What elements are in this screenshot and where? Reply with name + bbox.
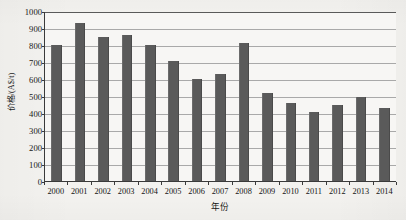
x-tick-mark	[138, 182, 139, 185]
bar-slot	[92, 12, 115, 181]
x-tick-label: 2010	[279, 186, 302, 199]
x-tick-label: 2007	[208, 186, 231, 199]
x-axis-title: 年份	[44, 200, 396, 212]
x-tick-label: 2012	[326, 186, 349, 199]
x-tick-mark	[67, 182, 68, 185]
x-tick-mark	[373, 182, 374, 185]
bar-chart-figure: 价格/(A$/t) 010020030040050060070080090010…	[0, 0, 406, 220]
bar-slot	[115, 12, 138, 181]
bar	[98, 37, 109, 181]
bar-slot	[185, 12, 208, 181]
bar-slot	[256, 12, 279, 181]
y-tick-label: 600	[10, 76, 42, 85]
bar-slot	[209, 12, 232, 181]
bar-slot	[302, 12, 325, 181]
x-tick-mark	[326, 182, 327, 185]
y-tick-label: 400	[10, 110, 42, 119]
bar-slot	[349, 12, 372, 181]
y-tick-label: 200	[10, 144, 42, 153]
y-tick-label: 900	[10, 25, 42, 34]
x-tick-label: 2011	[302, 186, 325, 199]
bar-slot	[232, 12, 255, 181]
bar-slot	[162, 12, 185, 181]
bar	[379, 108, 390, 181]
y-tick-label: 100	[10, 161, 42, 170]
bar-slot	[45, 12, 68, 181]
x-tick-label: 2013	[349, 186, 372, 199]
bar	[51, 45, 62, 181]
x-tick-label: 2000	[44, 186, 67, 199]
y-tick-label: 500	[10, 93, 42, 102]
bar	[309, 112, 320, 181]
x-tick-mark	[279, 182, 280, 185]
bar	[75, 23, 86, 181]
x-tick-mark	[349, 182, 350, 185]
y-tick-label: 700	[10, 59, 42, 68]
x-tick-label: 2006	[185, 186, 208, 199]
bar	[332, 105, 343, 181]
bar	[122, 35, 133, 181]
bar	[356, 97, 367, 181]
x-tick-label: 2003	[114, 186, 137, 199]
x-tick-label: 2008	[232, 186, 255, 199]
y-tick-label: 800	[10, 42, 42, 51]
bar-slot	[326, 12, 349, 181]
bar-slot	[139, 12, 162, 181]
bar	[192, 79, 203, 181]
x-tick-mark	[44, 182, 45, 185]
bar-slot	[68, 12, 91, 181]
bar	[262, 93, 273, 181]
bar	[145, 45, 156, 181]
x-tick-mark	[161, 182, 162, 185]
y-tick-label: 1000	[10, 8, 42, 17]
x-axis-tick-labels: 2000200120022003200420052006200720082009…	[44, 186, 396, 199]
x-tick-mark	[396, 182, 397, 185]
bar	[239, 43, 250, 181]
y-tick-label: 300	[10, 127, 42, 136]
x-tick-mark	[91, 182, 92, 185]
x-tick-mark	[232, 182, 233, 185]
y-tick-label: 0	[10, 178, 42, 187]
x-tick-mark	[302, 182, 303, 185]
x-tick-label: 2009	[255, 186, 278, 199]
bar-slot	[373, 12, 396, 181]
x-tick-mark	[255, 182, 256, 185]
x-tick-mark	[114, 182, 115, 185]
x-tick-label: 2004	[138, 186, 161, 199]
x-tick-label: 2002	[91, 186, 114, 199]
x-tick-mark	[208, 182, 209, 185]
bar-series	[45, 12, 396, 181]
bar	[215, 74, 226, 181]
bar-slot	[279, 12, 302, 181]
y-axis-tick-labels: 01002003004005006007008009001000	[10, 12, 42, 182]
bar	[286, 103, 297, 181]
plot-area	[44, 12, 396, 182]
x-tick-label: 2001	[67, 186, 90, 199]
x-tick-label: 2014	[373, 186, 396, 199]
x-tick-label: 2005	[161, 186, 184, 199]
bar	[168, 61, 179, 181]
x-tick-mark	[185, 182, 186, 185]
